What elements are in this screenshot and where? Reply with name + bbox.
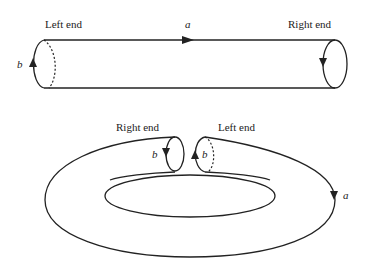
torus-arrow-a-icon <box>330 191 338 200</box>
cylinder-left-end-label: Left end <box>45 18 82 30</box>
torus-right-end-label: Right end <box>116 121 160 133</box>
torus-arrow-b-down-icon <box>162 148 170 157</box>
cylinder: Left end a Right end b <box>17 18 347 88</box>
arrow-a-icon <box>182 36 194 44</box>
cylinder-left-back-arc <box>44 40 55 88</box>
torus-outer-edge <box>45 137 335 257</box>
cylinder-edge-b-label: b <box>17 58 23 70</box>
torus-edge-a-label: a <box>343 189 349 201</box>
cylinder-to-torus-diagram: Left end a Right end b Right end Left en… <box>0 0 367 271</box>
torus: Right end Left end b b a <box>45 121 349 257</box>
torus-edge-b-left-label: b <box>202 148 208 160</box>
cylinder-right-ellipse <box>323 40 347 88</box>
torus-left-end-label: Left end <box>218 121 255 133</box>
arrow-b-down-icon <box>319 58 327 67</box>
cylinder-right-end-label: Right end <box>288 18 332 30</box>
torus-hole <box>105 175 275 217</box>
arrow-b-up-icon <box>29 58 37 67</box>
torus-arrow-b-up-icon <box>191 150 199 159</box>
torus-right-end-ellipse <box>166 137 184 171</box>
torus-edge-b-right-label: b <box>152 148 158 160</box>
cylinder-edge-a-label: a <box>185 18 191 30</box>
